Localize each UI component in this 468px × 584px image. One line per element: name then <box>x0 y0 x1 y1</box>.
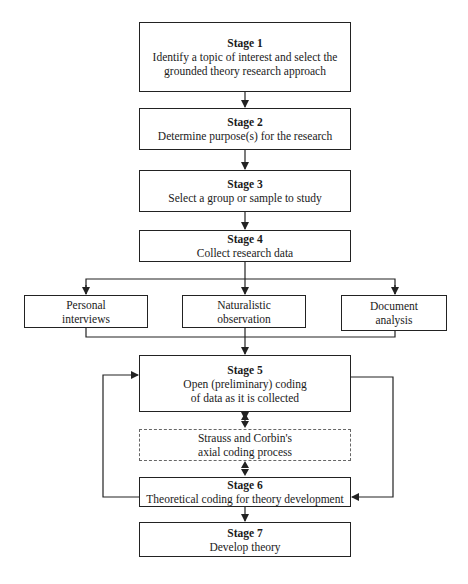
personal-interviews-line1: Personal <box>66 298 106 312</box>
stage-7-title: Stage 7 <box>227 526 262 540</box>
stage-5-box: Stage 5 Open (preliminary) coding of dat… <box>139 355 351 412</box>
stage-1-box: Stage 1 Identify a topic of interest and… <box>139 22 351 92</box>
split-line <box>86 279 395 294</box>
loop-left-stage6-stage5 <box>103 375 139 497</box>
stage-6-box: Stage 6 Theoretical coding for theory de… <box>139 477 351 507</box>
stage-3-desc: Select a group or sample to study <box>162 191 327 205</box>
document-analysis-line1: Document <box>370 299 418 313</box>
stage-6-title: Stage 6 <box>227 478 262 492</box>
stage-2-desc: Determine purpose(s) for the research <box>152 129 338 143</box>
stage-2-box: Stage 2 Determine purpose(s) for the res… <box>139 108 351 150</box>
personal-interviews-line2: interviews <box>62 312 110 326</box>
stage-4-box: Stage 4 Collect research data <box>139 230 351 262</box>
stage-5-desc-line1: Open (preliminary) coding <box>177 377 312 391</box>
stage-7-desc: Develop theory <box>203 540 286 554</box>
stage-5-title: Stage 5 <box>227 363 262 377</box>
stage-3-box: Stage 3 Select a group or sample to stud… <box>139 170 351 212</box>
stage-5-desc-line2: of data as it is collected <box>185 391 305 405</box>
stage-1-desc-line2: grounded theory research approach <box>158 64 332 78</box>
document-analysis-box: Document analysis <box>341 295 447 331</box>
stage-4-desc: Collect research data <box>191 246 299 260</box>
personal-interviews-box: Personal interviews <box>24 295 148 328</box>
stage-3-title: Stage 3 <box>227 177 262 191</box>
document-analysis-line2: analysis <box>375 313 412 327</box>
axial-coding-line2: axial coding process <box>198 445 292 459</box>
naturalistic-observation-line1: Naturalistic <box>217 298 271 312</box>
stage-1-title: Stage 1 <box>227 36 262 50</box>
stage-7-box: Stage 7 Develop theory <box>139 522 351 557</box>
axial-coding-line1: Strauss and Corbin's <box>198 431 292 445</box>
stage-1-desc-line1: Identify a topic of interest and select … <box>147 50 344 64</box>
stage-2-title: Stage 2 <box>227 115 262 129</box>
stage-4-title: Stage 4 <box>227 232 262 246</box>
arrow-axial-stage6 <box>241 461 249 476</box>
naturalistic-observation-box: Naturalistic observation <box>182 295 306 328</box>
naturalistic-observation-line2: observation <box>217 312 271 326</box>
axial-coding-box: Strauss and Corbin's axial coding proces… <box>139 429 351 461</box>
loop-right-stage5-stage6 <box>351 377 393 497</box>
stage-6-desc: Theoretical coding for theory developmen… <box>140 492 349 506</box>
